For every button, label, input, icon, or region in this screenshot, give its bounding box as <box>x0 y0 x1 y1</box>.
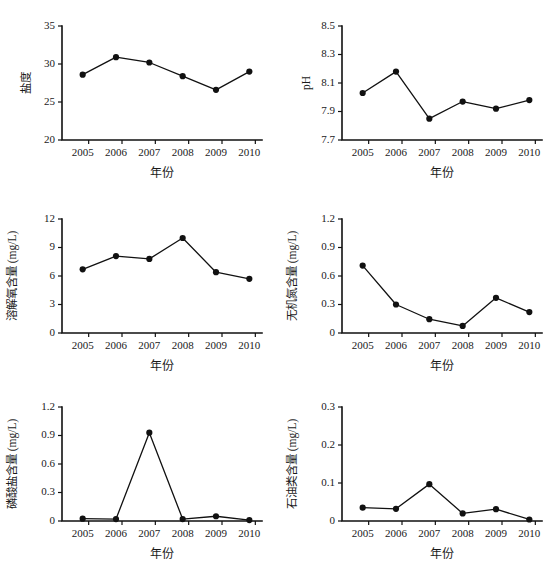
y-tick-label: 7.9 <box>321 104 335 116</box>
y-tick-label: 0 <box>50 326 56 338</box>
data-point <box>393 301 399 307</box>
chart-ph: 7.77.98.18.38.5200520062007200820092010年… <box>280 4 559 197</box>
x-tick-label: 2007 <box>418 339 441 351</box>
data-point <box>360 505 366 511</box>
x-tick-label: 2005 <box>72 339 95 351</box>
y-tick-label: 6 <box>50 269 56 281</box>
x-tick-label: 2010 <box>518 146 541 158</box>
x-tick-label: 2006 <box>105 339 128 351</box>
series-line-petroleum <box>363 484 530 519</box>
y-tick-label: 0.6 <box>41 457 55 469</box>
x-tick-label: 2009 <box>205 146 228 158</box>
y-tick-label: 3 <box>50 297 56 309</box>
x-tick-label: 2008 <box>172 146 195 158</box>
chart-petroleum: 00.10.20.3200520062007200820092010年份石油类含… <box>280 385 559 578</box>
x-tick-label: 2007 <box>138 527 161 539</box>
x-tick-label: 2009 <box>205 527 228 539</box>
data-point <box>146 59 152 65</box>
x-axis-title: 年份 <box>430 359 454 373</box>
x-axis-title: 年份 <box>430 547 454 561</box>
data-point <box>460 323 466 329</box>
chart-dissolved-oxygen: 036912200520062007200820092010年份溶解氧含量 (m… <box>0 197 279 390</box>
x-tick-label: 2005 <box>72 146 95 158</box>
axis-spines <box>62 26 262 140</box>
series-line-dissolved-oxygen <box>83 238 250 279</box>
y-tick-label: 30 <box>44 57 56 69</box>
axis-spines <box>342 26 542 140</box>
x-tick-label: 2010 <box>238 527 261 539</box>
y-tick-label: 0 <box>330 326 336 338</box>
panel-petroleum: 00.10.20.3200520062007200820092010年份石油类含… <box>280 385 559 578</box>
x-axis-title: 年份 <box>150 359 174 373</box>
data-point <box>493 506 499 512</box>
data-point <box>146 430 152 436</box>
y-tick-label: 0.6 <box>321 269 335 281</box>
data-point <box>180 235 186 241</box>
x-tick-label: 2009 <box>485 339 508 351</box>
series-line-phosphate <box>83 433 250 520</box>
data-point <box>246 276 252 282</box>
panel-phosphate: 00.30.60.91.2200520062007200820092010年份磷… <box>0 385 279 578</box>
series-line-salinity <box>83 57 250 90</box>
panel-salinity: 20253035200520062007200820092010年份盐度 <box>0 4 279 197</box>
x-tick-label: 2006 <box>105 527 128 539</box>
y-tick-label: 9 <box>50 240 56 252</box>
series-line-ph <box>363 72 530 119</box>
data-point <box>80 516 86 522</box>
x-tick-label: 2006 <box>385 527 408 539</box>
x-tick-label: 2005 <box>352 146 375 158</box>
y-tick-label: 0 <box>50 514 56 526</box>
data-point <box>460 510 466 516</box>
y-tick-label: 7.7 <box>321 133 335 145</box>
panel-ph: 7.77.98.18.38.5200520062007200820092010年… <box>280 4 559 197</box>
data-point <box>493 106 499 112</box>
y-axis-title: 石油类含量 (mg/L) <box>285 419 299 510</box>
y-tick-label: 20 <box>44 133 56 145</box>
data-point <box>360 90 366 96</box>
chart-phosphate: 00.30.60.91.2200520062007200820092010年份磷… <box>0 385 279 578</box>
data-point <box>180 516 186 522</box>
y-tick-label: 12 <box>44 212 55 224</box>
data-point <box>526 309 532 315</box>
data-point <box>213 513 219 519</box>
data-point <box>113 253 119 259</box>
y-tick-label: 0.3 <box>321 297 335 309</box>
data-point <box>393 69 399 75</box>
x-tick-label: 2007 <box>418 146 441 158</box>
data-point <box>180 73 186 79</box>
axis-spines <box>342 407 542 521</box>
y-axis-title: 溶解氧含量 (mg/L) <box>5 231 19 322</box>
y-axis-title: 盐度 <box>19 71 32 94</box>
panel-dissolved-oxygen: 036912200520062007200820092010年份溶解氧含量 (m… <box>0 197 279 390</box>
x-tick-label: 2006 <box>385 339 408 351</box>
x-axis-title: 年份 <box>150 166 174 180</box>
data-point <box>246 69 252 75</box>
data-point <box>246 517 252 523</box>
y-tick-label: 0.3 <box>321 400 335 412</box>
x-axis-title: 年份 <box>430 166 454 180</box>
panel-inorganic-nitrogen: 00.30.60.91.2200520062007200820092010年份无… <box>280 197 559 390</box>
x-tick-label: 2007 <box>138 339 161 351</box>
x-tick-label: 2006 <box>105 146 128 158</box>
y-tick-label: 35 <box>44 19 56 31</box>
x-tick-label: 2008 <box>172 527 195 539</box>
data-point <box>146 256 152 262</box>
x-tick-label: 2010 <box>518 527 541 539</box>
figure-multi-panel-water-quality: 20253035200520062007200820092010年份盐度 7.7… <box>0 0 559 581</box>
data-point <box>113 54 119 60</box>
y-tick-label: 0.9 <box>41 428 55 440</box>
x-tick-label: 2010 <box>518 339 541 351</box>
x-tick-label: 2007 <box>418 527 441 539</box>
data-point <box>426 116 432 122</box>
x-tick-label: 2006 <box>385 146 408 158</box>
x-tick-label: 2009 <box>485 527 508 539</box>
data-point <box>526 516 532 522</box>
data-point <box>460 98 466 104</box>
data-point <box>213 269 219 275</box>
chart-inorganic-nitrogen: 00.30.60.91.2200520062007200820092010年份无… <box>280 197 559 390</box>
data-point <box>426 481 432 487</box>
data-point <box>80 266 86 272</box>
x-tick-label: 2010 <box>238 339 261 351</box>
y-tick-label: 8.3 <box>321 47 335 59</box>
series-line-inorganic-nitrogen <box>363 266 530 326</box>
